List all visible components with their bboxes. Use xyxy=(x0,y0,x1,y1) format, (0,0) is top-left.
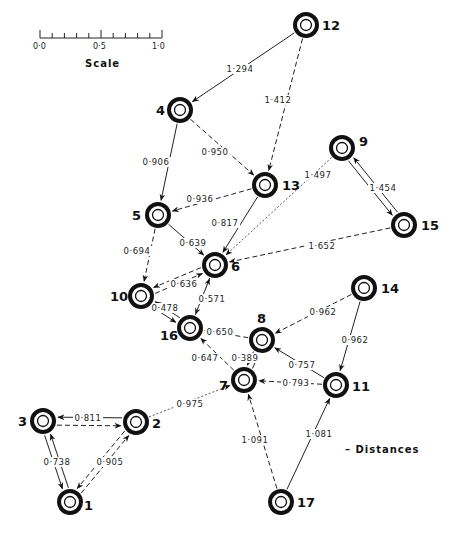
nodes-layer: 1241391556101614871132117 xyxy=(18,14,439,513)
edge-distance-label: 0·647 xyxy=(192,353,219,363)
node-13: 13 xyxy=(254,174,300,196)
node-label: 15 xyxy=(421,218,439,233)
edge-distance-label: 0·962 xyxy=(310,307,337,317)
node-label: 14 xyxy=(381,281,399,296)
node-inner-ring-icon xyxy=(65,497,76,508)
edge-distance-label: 0·636 xyxy=(171,279,198,289)
node-8: 8 xyxy=(251,311,273,351)
scale-tick-label-05: 0·5 xyxy=(93,42,106,51)
node-inner-ring-icon xyxy=(210,260,221,271)
node-label: 11 xyxy=(352,379,370,394)
node-label: 13 xyxy=(282,178,300,193)
edge-distance-label: 0·694 xyxy=(124,246,151,256)
edge-distance-label: 0·811 xyxy=(75,413,102,423)
edge-distance-label: 0·936 xyxy=(187,194,214,204)
edge-distance-label: 0·738 xyxy=(44,457,71,467)
edge-distance-label: 1·652 xyxy=(309,241,336,251)
node-inner-ring-icon xyxy=(239,375,250,386)
node-inner-ring-icon xyxy=(260,180,271,191)
node-3: 3 xyxy=(18,410,54,432)
node-inner-ring-icon xyxy=(136,291,147,302)
node-label: 10 xyxy=(110,289,128,304)
edge-distance-label: 1·497 xyxy=(305,170,332,180)
edge-distance-label: 1·454 xyxy=(370,183,397,193)
node-7: 7 xyxy=(219,369,255,393)
node-inner-ring-icon xyxy=(359,283,370,294)
node-6: 6 xyxy=(204,254,240,276)
node-label: 7 xyxy=(219,378,228,393)
node-inner-ring-icon xyxy=(38,416,49,427)
node-label: 4 xyxy=(156,103,165,118)
node-11: 11 xyxy=(325,374,370,396)
node-9: 9 xyxy=(331,134,368,159)
node-inner-ring-icon xyxy=(331,380,342,391)
edge-17-11 xyxy=(287,399,330,490)
node-inner-ring-icon xyxy=(337,143,348,154)
legend-distances: – Distances xyxy=(345,444,419,455)
distance-network-diagram: 0·0 0·5 1·0 Scale 1·2941·4120·9500·9060·… xyxy=(0,0,452,536)
scale-tick-label-1: 1·0 xyxy=(152,42,165,51)
node-inner-ring-icon xyxy=(185,323,196,334)
scale-bar: 0·0 0·5 1·0 Scale xyxy=(33,30,165,69)
scale-title: Scale xyxy=(85,58,120,69)
node-inner-ring-icon xyxy=(257,335,268,346)
node-1: 1 xyxy=(59,491,93,513)
node-label: 9 xyxy=(359,134,368,149)
edge-distance-label: 1·091 xyxy=(242,435,269,445)
edge-distance-label: 1·294 xyxy=(227,64,254,74)
node-label: 2 xyxy=(152,416,161,431)
node-inner-ring-icon xyxy=(175,105,186,116)
node-inner-ring-icon xyxy=(399,220,410,231)
edge-distance-label: 0·950 xyxy=(202,147,229,157)
node-16: 16 xyxy=(160,317,201,343)
edge-distance-label: 0·962 xyxy=(342,335,369,345)
node-5: 5 xyxy=(132,204,169,226)
node-label: 6 xyxy=(231,259,240,274)
edge-distance-label: 0·906 xyxy=(143,157,170,167)
node-12: 12 xyxy=(295,14,340,36)
edge-distance-label: 0·905 xyxy=(97,457,124,467)
edge-distance-label: 0·817 xyxy=(212,218,239,228)
edge-distance-label: 0·571 xyxy=(199,294,226,304)
edge-distance-label: 0·639 xyxy=(180,238,207,248)
node-14: 14 xyxy=(353,277,399,299)
edge-distance-label: 1·412 xyxy=(265,95,292,105)
node-label: 16 xyxy=(160,328,178,343)
node-label: 12 xyxy=(322,18,340,33)
node-17: 17 xyxy=(270,491,315,513)
node-label: 17 xyxy=(297,495,315,510)
node-label: 1 xyxy=(84,498,93,513)
edge-distance-label: 0·975 xyxy=(177,399,204,409)
edge-distance-label: 0·478 xyxy=(152,303,179,313)
node-inner-ring-icon xyxy=(301,20,312,31)
node-2: 2 xyxy=(125,411,161,433)
node-10: 10 xyxy=(110,285,152,307)
edge-distance-label: 0·757 xyxy=(289,360,316,370)
node-inner-ring-icon xyxy=(276,497,287,508)
node-label: 5 xyxy=(132,208,141,223)
edge-distance-label: 1·081 xyxy=(306,429,333,439)
edge-distance-label: 0·650 xyxy=(207,327,234,337)
node-label: 3 xyxy=(18,414,27,429)
node-inner-ring-icon xyxy=(131,417,142,428)
node-15: 15 xyxy=(393,214,439,236)
scale-tick-label-0: 0·0 xyxy=(33,42,46,51)
edge-distance-label: 0·793 xyxy=(283,378,310,388)
node-4: 4 xyxy=(156,99,191,121)
edge-distance-label: 0·389 xyxy=(232,353,259,363)
scale-ticks xyxy=(40,30,162,38)
node-label: 8 xyxy=(257,311,266,326)
node-inner-ring-icon xyxy=(153,210,164,221)
